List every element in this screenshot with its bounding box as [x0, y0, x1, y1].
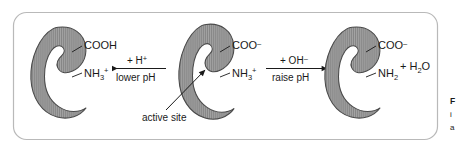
enzyme-low-ph: COOH NH3+	[31, 27, 117, 118]
label-plus-oh-minus: + OH–	[280, 54, 309, 66]
leader-line-nh2-right	[366, 73, 376, 77]
label-nh3-left: NH3+	[84, 66, 109, 82]
enzyme-shape-left	[31, 27, 86, 118]
label-h2o: + H2O	[400, 60, 431, 75]
enzyme-shape-right	[325, 27, 380, 118]
figure-container: COOH NH3+ + H+ lower pH COO– NH3+ active…	[0, 0, 461, 148]
water-byproduct: + H2O	[400, 60, 431, 75]
leader-line-nh3-center	[220, 73, 230, 77]
reaction-deprotonation: + OH– raise pH	[266, 54, 322, 83]
label-nh3-center: NH3+	[232, 66, 257, 82]
enzyme-ph-diagram: COOH NH3+ + H+ lower pH COO– NH3+ active…	[0, 0, 461, 148]
label-nh2-right: NH2	[378, 67, 398, 82]
label-coo-right: COO–	[378, 39, 408, 51]
enzyme-shape-center	[179, 24, 234, 119]
caption-fragment: F i a	[450, 96, 455, 132]
caption-line-3: a	[450, 123, 455, 132]
enzyme-neutral-ph: COO– NH3+ active site	[142, 24, 262, 123]
leader-line-nh3-left	[72, 73, 82, 77]
label-active-site: active site	[142, 112, 187, 123]
caption-line-1: F	[450, 96, 455, 106]
label-lower-ph: lower pH	[116, 72, 155, 83]
label-plus-h-plus: + H+	[127, 54, 148, 66]
label-raise-ph: raise pH	[272, 72, 309, 83]
reaction-protonation: + H+ lower pH	[112, 54, 166, 83]
enzyme-high-ph: COO– NH2	[325, 27, 408, 118]
label-coo-center: COO–	[232, 39, 262, 51]
label-cooh-left: COOH	[84, 39, 117, 51]
caption-line-2: i	[450, 110, 452, 119]
